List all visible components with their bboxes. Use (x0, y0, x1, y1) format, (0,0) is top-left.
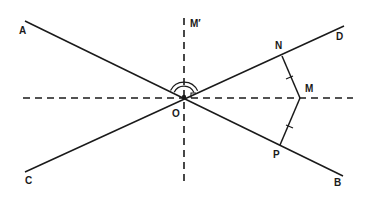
label-B: B (334, 177, 341, 188)
label-M-prime: M′ (190, 18, 201, 29)
point-O (182, 95, 186, 99)
label-O: O (172, 108, 180, 119)
label-M: M (305, 83, 313, 94)
geometry-diagram: A B C D N M P O M′ (0, 0, 368, 202)
label-C: C (25, 175, 32, 186)
label-P: P (273, 149, 280, 160)
segment-MP (280, 98, 300, 145)
label-A: A (19, 25, 26, 36)
label-N: N (275, 40, 282, 51)
label-D: D (336, 31, 343, 42)
